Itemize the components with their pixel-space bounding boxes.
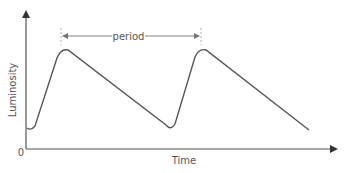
y-axis-label: Luminosity (7, 63, 18, 118)
luminosity-curve (27, 50, 309, 130)
x-axis-label: Time (171, 155, 196, 166)
light-curve-diagram: period Luminosity 0 Time (0, 0, 346, 173)
period-label: period (113, 31, 145, 42)
origin-label: 0 (18, 147, 24, 158)
